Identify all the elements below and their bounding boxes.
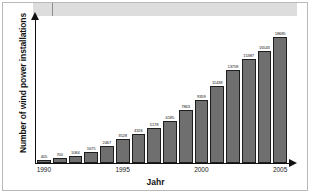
- bar[interactable]: [163, 121, 177, 163]
- bar[interactable]: [179, 110, 193, 163]
- bar-value-label: 5178: [150, 122, 159, 127]
- bar-value-label: 18685: [275, 31, 286, 36]
- bar-value-label: 700: [56, 152, 62, 157]
- bar[interactable]: [226, 70, 240, 163]
- bar-value-label: 13759: [228, 64, 239, 69]
- top-band-tick: [52, 3, 53, 16]
- bar-value-label: 1675: [87, 146, 96, 151]
- bar-value-label: 2467: [103, 140, 112, 145]
- bar-value-label: 15387: [243, 53, 254, 58]
- bar-slot: 16543: [257, 16, 273, 163]
- bar[interactable]: [258, 51, 272, 163]
- x-axis-line: [35, 163, 291, 164]
- x-tick-label: 2000: [194, 166, 208, 173]
- bar-value-label: 7863: [181, 104, 190, 109]
- bar-value-label: 6185: [166, 115, 175, 120]
- bar-slot: 18685: [272, 16, 288, 163]
- top-gray-band: [33, 3, 297, 16]
- bar[interactable]: [100, 146, 114, 163]
- bar-slot: 2467: [99, 16, 115, 163]
- bar[interactable]: [132, 134, 146, 163]
- bar[interactable]: [53, 158, 67, 163]
- bar[interactable]: [210, 86, 224, 163]
- bar-value-label: 1084: [71, 150, 80, 155]
- bar-slot: 4326: [131, 16, 147, 163]
- bar-value-label: 3528: [118, 133, 127, 138]
- bar-slot: 13759: [225, 16, 241, 163]
- bar-slot: 7863: [178, 16, 194, 163]
- bar-slot: 1675: [83, 16, 99, 163]
- bar[interactable]: [195, 100, 209, 163]
- bar[interactable]: [69, 156, 83, 163]
- bar-slot: 9359: [194, 16, 210, 163]
- x-axis-arrow-icon: [289, 159, 297, 167]
- bar-slot: 11438: [209, 16, 225, 163]
- bar-value-label: 16543: [259, 45, 270, 50]
- bar-slot: 3528: [115, 16, 131, 163]
- y-axis-label: Number of wind power installations: [18, 8, 28, 158]
- bar[interactable]: [273, 37, 287, 163]
- x-tick-label: 1990: [37, 166, 51, 173]
- bar-value-label: 405: [41, 154, 47, 159]
- bar[interactable]: [84, 152, 98, 163]
- bar-slot: 6185: [162, 16, 178, 163]
- bar-value-label: 4326: [134, 128, 143, 133]
- bar-value-label: 9359: [197, 94, 206, 99]
- bar[interactable]: [116, 139, 130, 163]
- bar-slot: 405: [36, 16, 52, 163]
- chart-figure: Number of wind power installations 40570…: [0, 0, 311, 194]
- x-tick-label: 1995: [115, 166, 129, 173]
- bar-value-label: 11438: [212, 80, 222, 85]
- bar[interactable]: [37, 160, 51, 163]
- bar-slot: 15387: [241, 16, 257, 163]
- bar[interactable]: [147, 128, 161, 163]
- bar-slot: 700: [52, 16, 68, 163]
- x-axis-label: Jahr: [0, 177, 311, 187]
- bar-slot: 5178: [146, 16, 162, 163]
- bar[interactable]: [242, 59, 256, 163]
- bar-series: 4057001084167524673528432651786185786393…: [36, 16, 288, 163]
- bar-slot: 1084: [68, 16, 84, 163]
- x-tick-label: 2005: [273, 166, 287, 173]
